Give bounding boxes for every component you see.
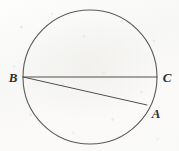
vertex-label-c: C [163, 70, 172, 85]
circle-geometry-diagram: B C A [0, 0, 179, 151]
vertex-label-a: A [151, 106, 161, 121]
chord-b-to-a [23, 77, 147, 105]
vertex-label-b: B [8, 70, 18, 85]
geometry-figure-root: B C A [0, 0, 179, 151]
